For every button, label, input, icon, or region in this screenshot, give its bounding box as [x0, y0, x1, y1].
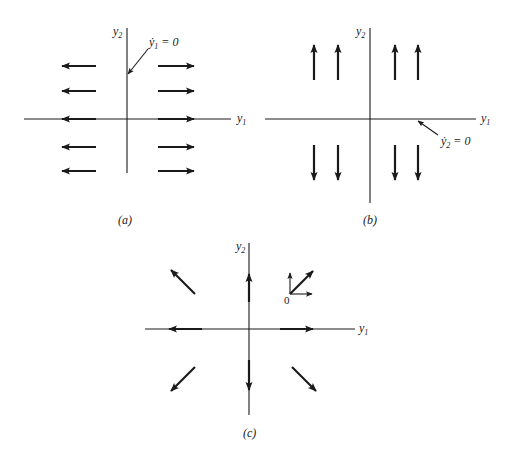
up-arrows	[314, 45, 418, 80]
annotation-pointer-arrow	[128, 49, 148, 74]
panel-b: y1 y2 ẏ2 = 0 (b)	[265, 24, 490, 227]
y2-axis-label: y2	[355, 24, 365, 40]
y1-axis-label: y1	[480, 111, 490, 127]
y2-axis-label: y2	[235, 239, 245, 255]
left-arrows	[62, 66, 96, 171]
panel-a-caption: (a)	[118, 213, 132, 227]
panel-c-caption: (c)	[243, 426, 256, 440]
phase-portrait-figure: y1 y2 ẏ1 = 0 (a) y1 y2 ẏ2 = 0	[0, 0, 511, 452]
nullcline-annotation: ẏ1 = 0	[148, 35, 178, 51]
panel-a: y1 y2 ẏ1 = 0 (a)	[24, 24, 246, 227]
panel-c: y1 y2 0 (c)	[145, 239, 368, 440]
y1-axis-label: y1	[358, 321, 368, 337]
panel-b-caption: (b)	[363, 213, 377, 227]
y2-axis-label: y2	[112, 24, 122, 40]
origin-inset: 0	[284, 271, 313, 306]
down-arrows	[314, 145, 418, 180]
right-arrows	[158, 66, 194, 171]
annotation-pointer-arrow	[418, 121, 438, 135]
inset-resultant-vector	[290, 271, 313, 294]
diagonal-arrows	[171, 270, 316, 391]
y1-axis-label: y1	[236, 111, 246, 127]
nullcline-annotation: ẏ2 = 0	[440, 134, 470, 150]
inset-origin-label: 0	[284, 294, 290, 306]
